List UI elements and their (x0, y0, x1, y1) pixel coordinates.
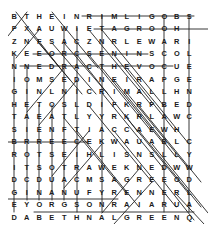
grid-cell: A (83, 161, 96, 174)
grid-cell: S (146, 148, 159, 161)
grid-cell: E (46, 211, 59, 224)
grid-cell: A (21, 211, 34, 224)
grid-cell (196, 199, 209, 212)
grid-cell: A (158, 111, 171, 124)
grid-cell: W (171, 161, 184, 174)
grid-cell: L (146, 111, 159, 124)
grid-cell: K (8, 48, 21, 61)
grid-cell: B (8, 10, 21, 23)
grid-cell: E (146, 211, 159, 224)
grid-cell: A (183, 199, 196, 212)
grid-cell: I (121, 73, 134, 86)
grid-cell: R (158, 199, 171, 212)
grid-cell: A (146, 136, 159, 149)
grid-cell: H (8, 98, 21, 111)
grid-cell: E (33, 60, 46, 73)
grid-cell: T (58, 111, 71, 124)
grid-cell: Y (96, 111, 109, 124)
grid-cell: R (8, 148, 21, 161)
grid-cell (196, 48, 209, 61)
grid-cell: S (46, 148, 59, 161)
grid-cell: N (133, 161, 146, 174)
grid-cell: C (183, 136, 196, 149)
grid-cell: C (83, 60, 96, 73)
grid-cell: S (46, 73, 59, 86)
grid-cell: U (46, 23, 59, 36)
grid-cell: H (171, 123, 184, 136)
grid-cell: E (46, 10, 59, 23)
grid-cell: O (21, 148, 34, 161)
grid-cell: T (21, 161, 34, 174)
grid-cell: S (83, 48, 96, 61)
grid-cell: I (21, 123, 34, 136)
grid-cell: O (146, 23, 159, 36)
grid-cell: T (21, 10, 34, 23)
grid-cell: S (46, 35, 59, 48)
grid-cell: I (58, 10, 71, 23)
grid-cell: L (96, 148, 109, 161)
grid-cell: E (158, 174, 171, 187)
grid-cell: R (133, 111, 146, 124)
grid-cell: H (33, 10, 46, 23)
grid-cell: V (133, 60, 146, 73)
grid-cell: S (33, 161, 46, 174)
grid-cell: O (146, 60, 159, 73)
grid-cell: Y (183, 148, 196, 161)
grid-cell: I (71, 148, 84, 161)
grid-cell: M (108, 10, 121, 23)
grid-cell (196, 23, 209, 36)
grid-cell: I (8, 161, 21, 174)
grid-cell: U (46, 174, 59, 187)
grid-cell: A (133, 123, 146, 136)
grid-cell: D (33, 174, 46, 187)
grid-cell: E (8, 199, 21, 212)
grid-cell: L (71, 98, 84, 111)
grid-cell: Q (183, 211, 196, 224)
grid-cell: C (108, 123, 121, 136)
grid-cell: E (33, 123, 46, 136)
grid-cell: G (8, 86, 21, 99)
grid-cell: R (133, 73, 146, 86)
grid-cell: N (108, 48, 121, 61)
grid-cell: I (71, 23, 84, 36)
grid-cell: C (71, 35, 84, 48)
grid-wrapper: BTHEINRIMLIGOBSPXAUWIETAGROOHZNFSACZNRLE… (8, 10, 208, 224)
grid-cell: A (158, 35, 171, 48)
grid-cell (196, 161, 209, 174)
grid-cell: B (8, 136, 21, 149)
grid-cell: O (158, 10, 171, 23)
grid-cell: N (33, 86, 46, 99)
grid-cell: B (158, 98, 171, 111)
grid-cell: I (121, 48, 134, 61)
grid-cell: C (71, 174, 84, 187)
grid-cell: O (171, 174, 184, 187)
grid-cell: N (133, 148, 146, 161)
grid-cell: B (33, 211, 46, 224)
grid-cell: C (183, 111, 196, 124)
grid-cell: R (133, 174, 146, 187)
grid-cell: R (58, 48, 71, 61)
grid-cell: I (108, 86, 121, 99)
grid-cell (196, 60, 209, 73)
grid-cell: N (183, 86, 196, 99)
grid-cell: N (83, 211, 96, 224)
grid-cell: F (83, 186, 96, 199)
grid-cell (196, 186, 209, 199)
grid-cell: I (183, 35, 196, 48)
grid-cell: O (46, 98, 59, 111)
grid-cell: R (133, 98, 146, 111)
grid-cell: E (58, 148, 71, 161)
grid-cell: E (183, 60, 196, 73)
grid-cell: G (8, 186, 21, 199)
grid-cell: K (121, 161, 134, 174)
grid-cell: H (83, 148, 96, 161)
grid-cell: I (8, 73, 21, 86)
grid-cell: O (46, 161, 59, 174)
grid-cell: A (108, 23, 121, 36)
grid-cell: I (108, 148, 121, 161)
grid-cell: M (121, 86, 134, 99)
grid-cell: R (71, 161, 84, 174)
grid-cell: E (108, 73, 121, 86)
grid-cell: R (171, 35, 184, 48)
grid-cell: L (183, 48, 196, 61)
